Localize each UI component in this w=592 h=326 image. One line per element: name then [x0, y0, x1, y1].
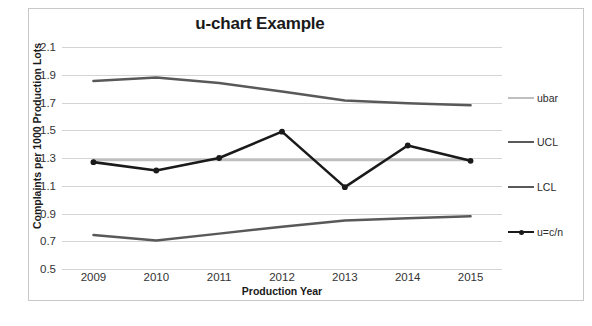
y-axis-tick-label: 1.3 — [16, 152, 56, 164]
plot-area — [62, 47, 502, 269]
chart-container: u-chart Example Complaints per 1000 Prod… — [0, 0, 592, 326]
legend-color-swatch — [508, 227, 534, 237]
legend-item-lcl[interactable]: LCL — [508, 181, 556, 193]
legend-color-swatch — [508, 182, 534, 192]
x-axis-tick-label: 2011 — [207, 271, 232, 283]
data-point-marker — [153, 168, 159, 174]
y-axis-tick-labels: 2.11.91.71.51.31.10.90.70.5 — [14, 47, 56, 269]
data-point-marker — [342, 184, 348, 190]
data-point-marker — [405, 143, 411, 149]
legend-item-ucl[interactable]: UCL — [508, 136, 558, 148]
x-axis-title: Production Year — [62, 285, 502, 297]
y-axis-tick-label: 0.7 — [16, 235, 56, 247]
y-axis-tick-label: 1.1 — [16, 180, 56, 192]
legend-item-ubar[interactable]: ubar — [508, 92, 558, 104]
series-line-ucl — [93, 78, 470, 106]
y-axis-tick-label: 0.5 — [16, 263, 56, 275]
legend-color-swatch — [508, 93, 534, 103]
series-layer — [62, 47, 502, 269]
chart-legend: ubarUCLLCLu=c/n — [508, 47, 580, 269]
legend-item-label: ubar — [537, 92, 558, 104]
legend-item-label: LCL — [537, 181, 556, 193]
data-point-marker — [468, 158, 474, 164]
x-axis-tick-label: 2009 — [81, 271, 107, 283]
data-point-marker — [279, 129, 285, 135]
y-axis-tick-label: 0.9 — [16, 208, 56, 220]
legend-item-u-c-n[interactable]: u=c/n — [508, 226, 563, 238]
legend-color-swatch — [508, 137, 534, 147]
x-axis-tick-label: 2010 — [143, 271, 169, 283]
y-axis-tick-label: 1.5 — [16, 124, 56, 136]
chart-title: u-chart Example — [0, 14, 520, 34]
y-axis-tick-label: 2.1 — [16, 41, 56, 53]
x-axis-tick-label: 2013 — [332, 271, 358, 283]
x-axis-tick-label: 2012 — [269, 271, 295, 283]
gridline — [62, 269, 502, 270]
y-axis-tick-label: 1.7 — [16, 97, 56, 109]
data-point-marker — [91, 159, 97, 165]
legend-item-label: u=c/n — [537, 226, 563, 238]
x-axis-tick-label: 2014 — [395, 271, 421, 283]
data-point-marker — [216, 155, 222, 161]
series-line-lcl — [93, 216, 470, 240]
y-axis-tick-label: 1.9 — [16, 69, 56, 81]
legend-item-label: UCL — [537, 136, 558, 148]
x-axis-tick-label: 2015 — [458, 271, 484, 283]
